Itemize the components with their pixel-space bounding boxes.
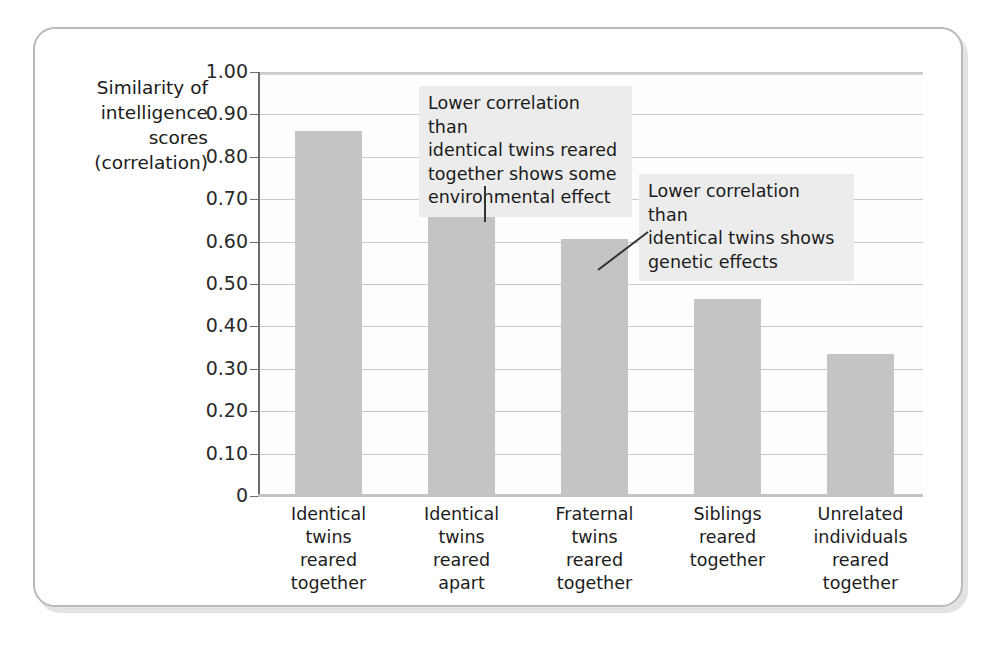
y-axis-tick-label: 0.10 xyxy=(186,442,248,464)
y-axis-title-line-1: Similarity of xyxy=(38,75,208,100)
x-axis-category-line: reared xyxy=(662,526,794,549)
y-axis-tick-label: 0.90 xyxy=(186,102,248,124)
annotation-line: Lower correlation than xyxy=(428,92,623,139)
y-axis-tick-mark xyxy=(250,454,258,455)
y-axis-tick-mark xyxy=(250,114,258,115)
x-axis-category-line: apart xyxy=(396,572,528,595)
annotation-line: identical twins reared xyxy=(428,139,623,163)
y-axis-tick-label: 0.60 xyxy=(186,230,248,252)
annotation-line: genetic effects xyxy=(648,251,845,275)
x-axis-category-label: Identicaltwinsrearedapart xyxy=(396,503,528,595)
y-axis-line xyxy=(258,72,260,496)
x-axis-category-line: twins xyxy=(263,526,395,549)
annotation-line: together shows some xyxy=(428,163,623,187)
y-axis-tick-label: 0.30 xyxy=(186,357,248,379)
annotation-line: environmental effect xyxy=(428,186,623,210)
y-axis-tick-mark xyxy=(250,411,258,412)
x-axis-category-line: together xyxy=(662,549,794,572)
x-axis-category-label: Unrelatedindividualsrearedtogether xyxy=(795,503,927,595)
bar xyxy=(827,354,894,496)
y-axis-title-line-3: scores xyxy=(38,125,208,150)
y-axis-tick-label: 0.20 xyxy=(186,399,248,421)
y-axis-title: Similarity of intelligence scores (corre… xyxy=(38,75,208,175)
x-axis-category-line: Unrelated xyxy=(795,503,927,526)
x-axis-category-label: Fraternaltwinsrearedtogether xyxy=(529,503,661,595)
x-axis-category-line: reared xyxy=(263,549,395,572)
x-axis-category-line: together xyxy=(795,572,927,595)
y-axis-title-line-2: intelligence xyxy=(38,100,208,125)
y-axis-tick-mark xyxy=(250,72,258,73)
bar xyxy=(561,239,628,496)
y-axis-tick-label: 0.70 xyxy=(186,187,248,209)
x-axis-category-line: individuals xyxy=(795,526,927,549)
bar xyxy=(428,189,495,496)
y-axis-tick-mark xyxy=(250,284,258,285)
gridline xyxy=(258,72,923,73)
y-axis-tick-mark xyxy=(250,242,258,243)
y-axis-tick-label: 1.00 xyxy=(186,60,248,82)
x-axis-category-line: reared xyxy=(529,549,661,572)
x-axis-category-line: Fraternal xyxy=(529,503,661,526)
y-axis-tick-mark xyxy=(250,369,258,370)
annotation-line: identical twins shows xyxy=(648,227,845,251)
y-axis-tick-mark xyxy=(250,326,258,327)
x-axis-category-label: Siblingsrearedtogether xyxy=(662,503,794,572)
bar xyxy=(295,131,362,496)
x-axis-line xyxy=(258,494,923,497)
x-axis-category-line: Identical xyxy=(396,503,528,526)
x-axis-category-line: twins xyxy=(396,526,528,549)
x-axis-category-line: Identical xyxy=(263,503,395,526)
x-axis-category-line: reared xyxy=(396,549,528,572)
y-axis-tick-mark xyxy=(250,496,258,497)
y-axis-tick-label: 0.40 xyxy=(186,314,248,336)
x-axis-category-line: Siblings xyxy=(662,503,794,526)
x-axis-category-line: together xyxy=(529,572,661,595)
annotation-leader-line-vertical xyxy=(484,186,486,222)
annotation-genetic-effects: Lower correlation than identical twins s… xyxy=(639,174,854,281)
y-axis-tick-label: 0.50 xyxy=(186,272,248,294)
y-axis-tick-label: 0 xyxy=(186,484,248,506)
annotation-line: Lower correlation than xyxy=(648,180,845,227)
y-axis-tick-label: 0.80 xyxy=(186,145,248,167)
y-axis-tick-mark xyxy=(250,157,258,158)
y-axis-tick-mark xyxy=(250,199,258,200)
annotation-environmental-effect: Lower correlation than identical twins r… xyxy=(419,86,632,217)
x-axis-category-line: twins xyxy=(529,526,661,549)
bar xyxy=(694,299,761,496)
x-axis-category-label: Identicaltwinsrearedtogether xyxy=(263,503,395,595)
x-axis-category-line: reared xyxy=(795,549,927,572)
x-axis-category-line: together xyxy=(263,572,395,595)
y-axis-title-line-4: (correlation) xyxy=(38,150,208,175)
